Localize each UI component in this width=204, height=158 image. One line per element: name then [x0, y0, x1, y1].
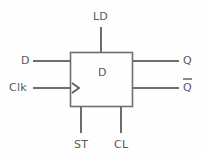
label-q-bar: Q — [183, 82, 192, 93]
label-d-input: D — [21, 55, 30, 66]
label-clk: Clk — [9, 82, 27, 93]
clock-triangle-icon — [72, 83, 79, 93]
label-st: ST — [74, 139, 88, 150]
label-ld: LD — [93, 11, 108, 22]
label-body-type: D — [98, 67, 107, 78]
flipflop-body-rect — [71, 53, 133, 107]
label-q: Q — [183, 55, 192, 66]
label-cl: CL — [114, 139, 128, 150]
logic-diagram-canvas: LD D Clk ST CL Q Q D — [0, 0, 204, 158]
diagram-graphics — [0, 0, 204, 158]
